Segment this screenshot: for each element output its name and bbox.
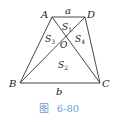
label-side-a: a <box>65 5 71 16</box>
side-ab <box>20 17 52 83</box>
region-s4: S4 <box>75 34 85 45</box>
figure-caption: 图6-80 <box>0 100 118 115</box>
label-d-point: D <box>86 9 95 20</box>
diagonal-bd <box>20 17 85 83</box>
region-s2: S2 <box>58 60 68 71</box>
label-o-point: O <box>60 40 68 50</box>
region-s3: S3 <box>45 34 55 45</box>
region-s1: S1 <box>62 22 72 33</box>
label-a-point: A <box>40 9 48 20</box>
caption-number: 6-80 <box>57 103 79 114</box>
label-c-point: C <box>102 78 110 89</box>
caption-prefix: 图 <box>39 103 49 114</box>
label-b-point: B <box>8 78 16 89</box>
label-side-b: b <box>56 86 62 97</box>
